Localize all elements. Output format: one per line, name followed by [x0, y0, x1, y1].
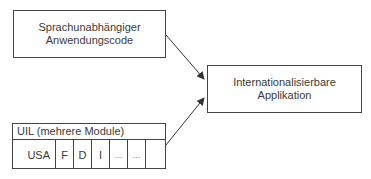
uil-module-cell: F [56, 140, 74, 169]
uil-module-cell: D [74, 140, 92, 169]
uil-modules-box: UIL (mehrere Module) USA F D I ... ... [12, 123, 166, 169]
uil-module-row: USA F D I ... ... [13, 140, 165, 169]
uil-module-cell [146, 140, 165, 169]
source-code-box: Sprachunabhängiger Anwendungscode [13, 10, 166, 58]
arrow-uil-to-target [166, 98, 204, 145]
source-code-label-line2: Anwendungscode [46, 34, 133, 47]
application-label-line1: Internationalisierbare [233, 76, 336, 89]
uil-module-cell: ... [110, 140, 128, 169]
application-box: Internationalisierbare Applikation [207, 65, 362, 113]
arrow-source-to-target [166, 35, 204, 79]
uil-header: UIL (mehrere Module) [13, 124, 165, 140]
application-label-line2: Applikation [258, 89, 312, 102]
source-code-label-line1: Sprachunabhängiger [38, 21, 140, 34]
uil-module-cell: I [92, 140, 110, 169]
uil-module-cell: USA [13, 140, 56, 169]
uil-module-cell: ... [128, 140, 146, 169]
